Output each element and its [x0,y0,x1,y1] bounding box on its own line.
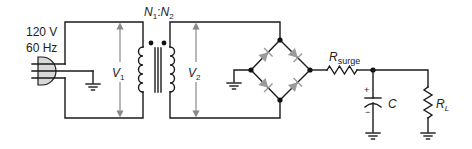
bridge-ground-wire [234,70,251,82]
capacitor-minus: − [365,107,370,117]
secondary-dot [162,41,167,46]
load-resistor-icon [424,87,432,132]
ground-icon [227,83,241,89]
capacitor-icon [365,70,381,132]
capacitor-plus: + [364,85,369,95]
surge-resistor-icon [310,66,373,74]
source-voltage-label: 120 V [26,25,57,39]
surge-resistor-label: Rsurge [329,50,360,66]
circuit-diagram: 120 V 60 Hz V1 N1:N2 [0,0,472,149]
primary-dot [149,41,154,46]
capacitor-label: C [388,97,397,111]
v2-label: V2 [188,66,201,82]
primary-wires [65,22,143,118]
secondary-wires [170,22,280,118]
ground-icon [86,84,100,90]
ac-plug-icon [32,57,93,85]
load-resistor-label: RL [436,97,449,113]
load-wire [373,70,428,87]
ground-icon [421,133,435,139]
bridge-rectifier [248,37,312,102]
ground-icon [366,133,380,139]
source-frequency-label: 60 Hz [26,41,57,55]
transformer-icon [139,41,175,92]
v1-label: V1 [112,66,125,82]
turns-ratio-label: N1:N2 [144,5,174,21]
